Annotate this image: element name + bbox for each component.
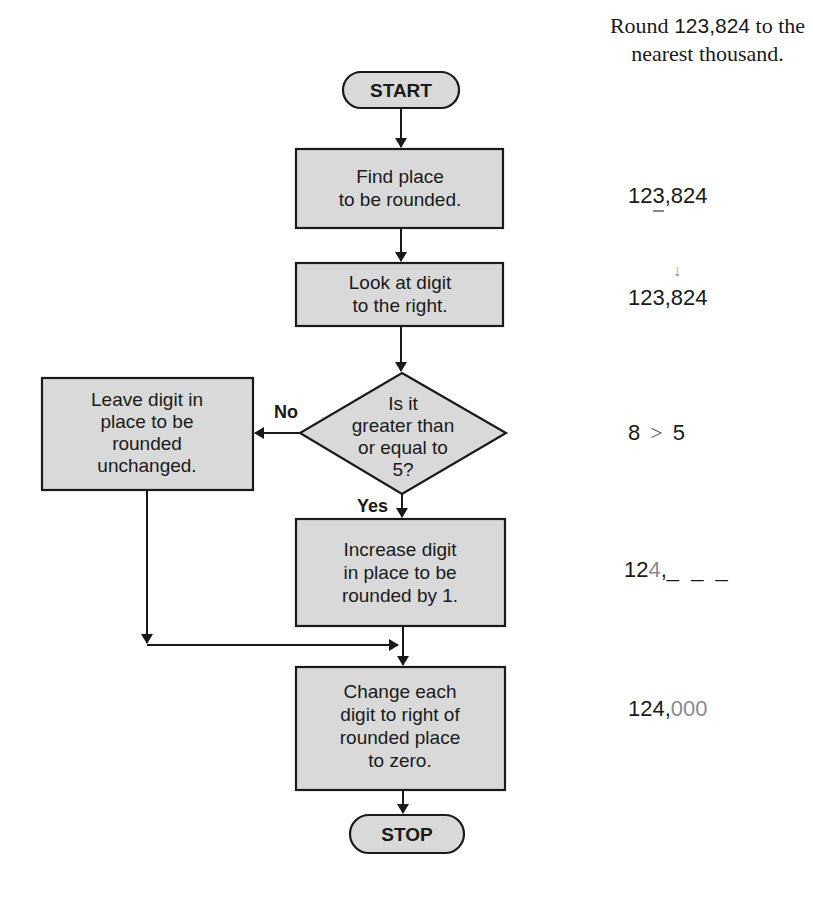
problem-line1: Round 123,824 to the: [600, 12, 813, 40]
step-change-line3: rounded place: [340, 727, 460, 748]
decision-line3: or equal to: [358, 437, 448, 458]
step-find-place-line2: to be rounded.: [339, 189, 462, 210]
problem-statement: Round 123,824 to the nearest thousand.: [600, 12, 813, 68]
decision-line4: 5?: [392, 459, 413, 480]
flowchart: START Find place to be rounded. Look at …: [0, 0, 813, 909]
step-increase-line1: Increase digit: [343, 539, 457, 560]
start-label: START: [370, 80, 432, 101]
problem-number: 123,824: [674, 14, 750, 37]
problem-suffix: to the: [750, 13, 805, 38]
no-label: No: [274, 402, 298, 422]
step-leave-line3: rounded: [112, 433, 182, 454]
stop-terminator: STOP: [350, 815, 464, 853]
start-terminator: START: [343, 72, 459, 108]
example-step-look-before: 123,: [628, 285, 671, 310]
down-arrow-icon: ↓: [673, 263, 681, 279]
example-step-find-before: 12: [628, 183, 652, 208]
step-change-line4: to zero.: [368, 750, 431, 771]
blank-placeholders: _ _ _: [667, 557, 731, 582]
example-step-find-after: ,824: [665, 183, 708, 208]
step-increase-digit: Increase digit in place to be rounded by…: [296, 519, 505, 626]
rounding-digit-underlined: 3: [652, 183, 664, 209]
compare-left: 8: [628, 420, 640, 445]
example-step-look-after: 24: [683, 285, 707, 310]
step-leave-line2: place to be: [101, 411, 194, 432]
step-change-to-zero: Change each digit to right of rounded pl…: [296, 667, 505, 790]
example-step-zero: 124,000: [628, 696, 708, 722]
problem-prefix: Round: [610, 13, 674, 38]
step-increase-line3: rounded by 1.: [342, 585, 458, 606]
problem-line2: nearest thousand.: [600, 40, 813, 68]
zeroed-digits: 000: [671, 696, 708, 721]
step-look-right-line1: Look at digit: [349, 272, 452, 293]
step-change-line1: Change each: [343, 681, 456, 702]
yes-label: Yes: [357, 496, 388, 516]
step-look-right: Look at digit to the right.: [296, 263, 503, 326]
compare-right: 5: [673, 420, 685, 445]
step-leave-unchanged: Leave digit in place to be rounded uncha…: [42, 378, 253, 490]
step-find-place: Find place to be rounded.: [296, 149, 503, 228]
decision-diamond: Is it greater than or equal to 5?: [300, 373, 506, 494]
step-leave-line1: Leave digit in: [91, 389, 203, 410]
greater-than-operator: >: [650, 420, 662, 445]
example-step-find: 123,824: [628, 183, 708, 209]
digit-to-right: ↓8: [671, 285, 683, 311]
example-step-zero-before: 124,: [628, 696, 671, 721]
step-increase-line2: in place to be: [343, 562, 456, 583]
example-step-increase-before: 12: [624, 557, 648, 582]
example-step-look: 123,↓824: [628, 285, 708, 311]
step-look-right-line2: to the right.: [352, 295, 447, 316]
example-step-increase: 124,_ _ _: [624, 557, 731, 583]
step-leave-line4: unchanged.: [97, 455, 196, 476]
decision-line2: greater than: [352, 415, 454, 436]
increased-digit: 4: [648, 557, 660, 582]
example-step-compare: 8>5: [628, 420, 685, 446]
step-find-place-line1: Find place: [356, 166, 444, 187]
stop-label: STOP: [381, 824, 433, 845]
step-change-line2: digit to right of: [340, 704, 460, 725]
decision-line1: Is it: [388, 393, 418, 414]
digit-to-right-value: 8: [671, 285, 683, 310]
